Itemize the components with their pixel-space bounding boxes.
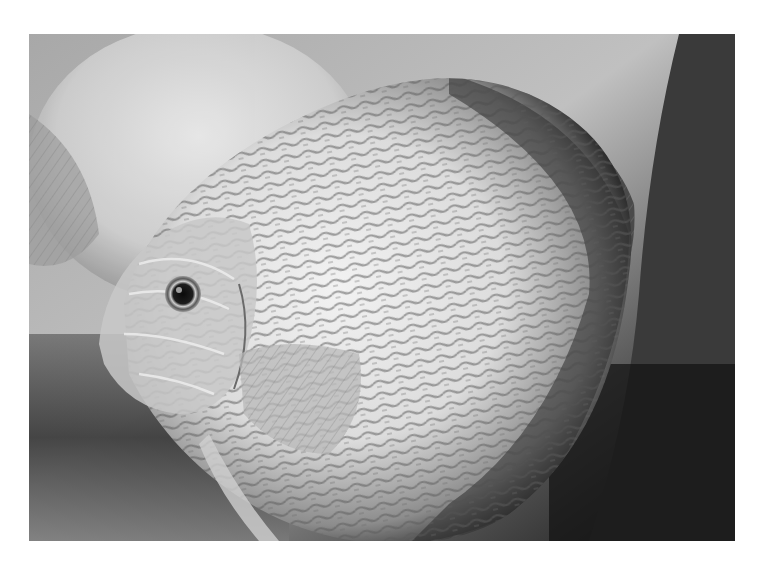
photo-canvas (29, 34, 735, 541)
discus-fish-photo (29, 34, 735, 541)
fish-eye (165, 276, 201, 312)
